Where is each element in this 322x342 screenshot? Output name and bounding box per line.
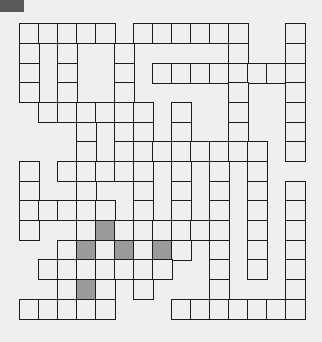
grid-cell[interactable] — [285, 122, 306, 143]
grid-cell[interactable] — [114, 43, 135, 64]
grid-cell[interactable] — [76, 181, 97, 202]
grid-cell[interactable] — [133, 141, 154, 162]
grid-cell[interactable] — [133, 240, 154, 261]
grid-cell[interactable] — [190, 220, 211, 241]
grid-cell[interactable] — [57, 63, 78, 84]
grid-cell[interactable] — [133, 279, 154, 300]
grid-cell[interactable] — [247, 161, 268, 182]
grid-cell[interactable] — [38, 200, 59, 221]
grid-cell[interactable] — [152, 259, 173, 280]
grid-cell[interactable] — [133, 181, 154, 202]
grid-cell[interactable] — [190, 63, 211, 84]
grid-cell[interactable] — [19, 220, 40, 241]
shaded-cell[interactable] — [152, 240, 173, 261]
grid-cell[interactable] — [114, 141, 135, 162]
grid-cell[interactable] — [95, 279, 116, 300]
grid-cell[interactable] — [57, 102, 78, 123]
grid-cell[interactable] — [266, 63, 287, 84]
shaded-cell[interactable] — [76, 240, 97, 261]
grid-cell[interactable] — [95, 200, 116, 221]
grid-cell[interactable] — [152, 63, 173, 84]
grid-cell[interactable] — [152, 141, 173, 162]
grid-cell[interactable] — [114, 102, 135, 123]
grid-cell[interactable] — [209, 23, 230, 44]
grid-cell[interactable] — [133, 102, 154, 123]
grid-cell[interactable] — [114, 82, 135, 103]
grid-cell[interactable] — [171, 200, 192, 221]
grid-cell[interactable] — [171, 102, 192, 123]
grid-cell[interactable] — [209, 279, 230, 300]
grid-cell[interactable] — [209, 161, 230, 182]
grid-cell[interactable] — [285, 43, 306, 64]
grid-cell[interactable] — [76, 161, 97, 182]
grid-cell[interactable] — [285, 240, 306, 261]
grid-cell[interactable] — [152, 220, 173, 241]
grid-cell[interactable] — [95, 240, 116, 261]
grid-cell[interactable] — [190, 299, 211, 320]
grid-cell[interactable] — [19, 181, 40, 202]
grid-cell[interactable] — [57, 23, 78, 44]
grid-cell[interactable] — [19, 161, 40, 182]
grid-cell[interactable] — [285, 181, 306, 202]
grid-cell[interactable] — [19, 43, 40, 64]
grid-cell[interactable] — [95, 259, 116, 280]
grid-cell[interactable] — [76, 102, 97, 123]
grid-cell[interactable] — [171, 299, 192, 320]
grid-cell[interactable] — [228, 299, 249, 320]
grid-cell[interactable] — [190, 141, 211, 162]
grid-cell[interactable] — [209, 141, 230, 162]
grid-cell[interactable] — [133, 259, 154, 280]
grid-cell[interactable] — [171, 181, 192, 202]
grid-cell[interactable] — [228, 102, 249, 123]
grid-cell[interactable] — [171, 141, 192, 162]
grid-cell[interactable] — [57, 43, 78, 64]
grid-cell[interactable] — [133, 23, 154, 44]
grid-cell[interactable] — [133, 122, 154, 143]
grid-cell[interactable] — [76, 259, 97, 280]
grid-cell[interactable] — [171, 161, 192, 182]
grid-cell[interactable] — [38, 23, 59, 44]
grid-cell[interactable] — [19, 200, 40, 221]
grid-cell[interactable] — [247, 220, 268, 241]
grid-cell[interactable] — [285, 259, 306, 280]
grid-cell[interactable] — [114, 220, 135, 241]
grid-cell[interactable] — [285, 200, 306, 221]
grid-cell[interactable] — [38, 299, 59, 320]
grid-cell[interactable] — [95, 102, 116, 123]
grid-cell[interactable] — [209, 181, 230, 202]
grid-cell[interactable] — [209, 299, 230, 320]
grid-cell[interactable] — [247, 200, 268, 221]
grid-cell[interactable] — [76, 200, 97, 221]
grid-cell[interactable] — [228, 63, 249, 84]
grid-cell[interactable] — [247, 299, 268, 320]
grid-cell[interactable] — [76, 141, 97, 162]
grid-cell[interactable] — [209, 200, 230, 221]
shaded-cell[interactable] — [114, 240, 135, 261]
grid-cell[interactable] — [247, 63, 268, 84]
grid-cell[interactable] — [285, 82, 306, 103]
grid-cell[interactable] — [285, 279, 306, 300]
grid-cell[interactable] — [57, 240, 78, 261]
grid-cell[interactable] — [95, 23, 116, 44]
grid-cell[interactable] — [19, 299, 40, 320]
grid-cell[interactable] — [76, 122, 97, 143]
grid-cell[interactable] — [285, 102, 306, 123]
grid-cell[interactable] — [114, 122, 135, 143]
grid-cell[interactable] — [114, 259, 135, 280]
grid-cell[interactable] — [209, 259, 230, 280]
grid-cell[interactable] — [19, 63, 40, 84]
grid-cell[interactable] — [19, 82, 40, 103]
grid-cell[interactable] — [228, 122, 249, 143]
grid-cell[interactable] — [228, 82, 249, 103]
grid-cell[interactable] — [247, 181, 268, 202]
grid-cell[interactable] — [228, 43, 249, 64]
shaded-cell[interactable] — [76, 279, 97, 300]
grid-cell[interactable] — [57, 279, 78, 300]
grid-cell[interactable] — [171, 63, 192, 84]
grid-cell[interactable] — [247, 240, 268, 261]
grid-cell[interactable] — [285, 63, 306, 84]
grid-cell[interactable] — [114, 161, 135, 182]
grid-cell[interactable] — [228, 141, 249, 162]
grid-cell[interactable] — [19, 23, 40, 44]
grid-cell[interactable] — [57, 299, 78, 320]
